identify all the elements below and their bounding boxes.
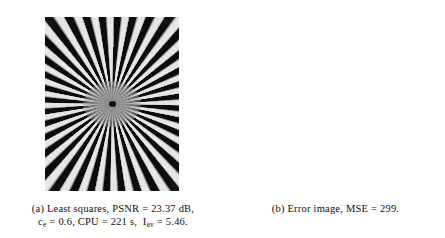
caption-a-cpu-value: 221 s [111, 216, 135, 227]
caption-b-mse-value: 299 [380, 203, 396, 214]
caption-a-psnr-label: PSNR [112, 203, 139, 214]
caption-b-title: Error image [288, 203, 341, 214]
caption-b-mse-label: MSE [346, 203, 368, 214]
caption-a-line-2: ce = 0.6, CPU = 221 s, Iav = 5.46. [0, 216, 226, 230]
figure-container: (a) Least squares, PSNR = 23.37 dB, ce =… [0, 0, 445, 238]
caption-panel-b: (b) Error image, MSE = 299. [226, 203, 445, 216]
caption-a-psnr-value: 23.37 dB [151, 203, 191, 214]
caption-b-line-1: (b) Error image, MSE = 299. [226, 203, 445, 216]
caption-b-tag: (b) [272, 203, 285, 214]
caption-a-iav-value: 5.46 [166, 216, 185, 227]
least-squares-image [45, 17, 179, 191]
caption-a-iav-subscript: av [146, 220, 154, 229]
figure-panel-b: (b) Error image, MSE = 299. [226, 0, 445, 238]
caption-a-line-1: (a) Least squares, PSNR = 23.37 dB, [0, 203, 226, 216]
figure-panel-a: (a) Least squares, PSNR = 23.37 dB, ce =… [0, 0, 226, 238]
caption-a-method: Least squares [47, 203, 107, 214]
caption-a-ce-value: 0.6 [58, 216, 72, 227]
caption-a-cpu-label: CPU [78, 216, 99, 227]
star-center-dot [109, 101, 116, 107]
caption-a-tag: (a) [32, 203, 44, 214]
caption-a-ce-subscript: e [43, 220, 47, 229]
caption-panel-a: (a) Least squares, PSNR = 23.37 dB, ce =… [0, 203, 226, 229]
